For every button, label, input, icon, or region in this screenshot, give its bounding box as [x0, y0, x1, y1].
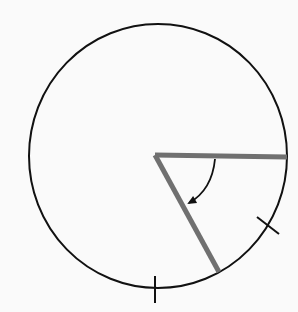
circle-angle-diagram [0, 0, 298, 312]
arrowhead-icon [187, 196, 197, 204]
horizontal-radius [155, 155, 287, 157]
slanted-radius [155, 155, 219, 272]
right-lower-tick [257, 217, 279, 234]
